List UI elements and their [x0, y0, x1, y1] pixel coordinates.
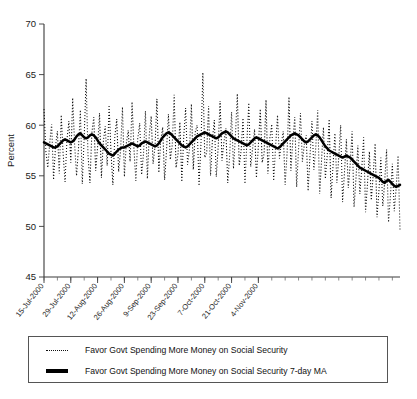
- x-tick-label: 4-Nov-2000: [228, 282, 260, 319]
- dotted-line-icon: [29, 350, 85, 351]
- solid-line-icon: [29, 369, 85, 372]
- legend-label-ma: Favor Govt Spending More Money on Social…: [85, 366, 327, 376]
- y-tick-label: 70: [25, 18, 36, 29]
- y-tick-label: 50: [25, 221, 36, 232]
- series-raw-line: [44, 73, 400, 230]
- y-tick-label: 65: [25, 69, 36, 80]
- legend-label-raw: Favor Govt Spending More Money on Social…: [85, 345, 288, 355]
- y-tick-label: 55: [25, 170, 36, 181]
- y-axis-title: Percent: [5, 134, 16, 167]
- y-tick-label: 60: [25, 120, 36, 131]
- y-tick-label: 45: [25, 271, 36, 282]
- legend-item-raw: Favor Govt Spending More Money on Social…: [29, 340, 387, 360]
- legend-item-ma: Favor Govt Spending More Money on Social…: [29, 361, 387, 381]
- chart-legend: Favor Govt Spending More Money on Social…: [28, 336, 388, 383]
- chart-figure: 455055606570Percent15-Jul-200029-Jul-200…: [0, 0, 417, 399]
